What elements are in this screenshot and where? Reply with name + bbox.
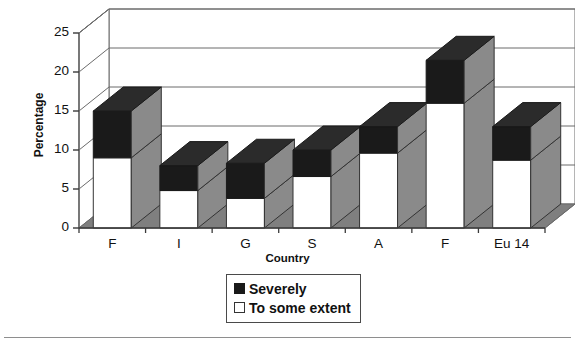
chart-figure: Percentage 0510152025 FIGSAFEu 14 Countr… [0,0,575,349]
legend-item-severely: Severely [234,279,351,298]
x-axis-title: Country [0,252,575,264]
bar-side-lower [464,79,494,228]
x-tick-label: I [144,236,214,251]
x-tick-label: G [210,236,280,251]
bar-segment-upper [93,111,131,158]
y-axis-title: Percentage [32,70,46,180]
bar-segment-upper [293,150,331,177]
x-tick-label: S [277,236,347,251]
bar-segment-upper [426,60,464,103]
bar-segment-lower [160,191,198,228]
bar-segment-lower [360,153,398,228]
y-tick-label: 5 [35,180,69,195]
x-tick-label: Eu 14 [477,236,547,251]
bar-segment-upper [493,127,531,161]
bar-segment-lower [226,198,264,228]
dark-square-icon [234,283,245,294]
y-tick-label: 20 [35,63,69,78]
bar-segment-lower [493,160,531,228]
legend-label-to-some-extent: To some extent [249,300,351,316]
y-tick-label: 15 [35,102,69,117]
bar-segment-upper [160,166,198,191]
bar-segment-upper [226,163,264,198]
bar-segment-lower [93,158,131,228]
x-tick-label: A [344,236,414,251]
legend-label-severely: Severely [249,281,307,297]
y-tick-label: 10 [35,141,69,156]
bar-segment-lower [293,177,331,228]
legend-item-to-some-extent: To some extent [234,298,351,317]
page-rule [4,337,571,338]
bar-segment-upper [360,127,398,154]
legend: Severely To some extent [226,274,361,323]
bar-segment-lower [426,103,464,228]
x-tick-label: F [77,236,147,251]
y-tick-label: 25 [35,24,69,39]
y-tick-label: 0 [35,219,69,234]
x-tick-label: F [410,236,480,251]
light-square-icon [234,302,245,313]
